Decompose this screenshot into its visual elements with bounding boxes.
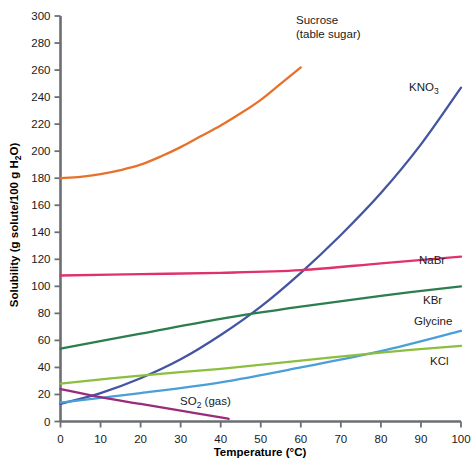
x-axis-tick-label: 10 <box>94 433 107 445</box>
series-label-kno3-subscript: 3 <box>434 86 439 96</box>
series-label-sucrose-line1: Sucrose <box>296 14 338 26</box>
x-axis-tick-label: 30 <box>174 433 187 445</box>
x-axis-title: Temperature (°C) <box>214 446 307 458</box>
y-axis-tick-label: 120 <box>31 253 50 265</box>
x-axis-tick-label: 20 <box>134 433 147 445</box>
y-axis-tick-label: 80 <box>38 307 51 319</box>
y-axis-title-main: Solubility (g solute/100 g H <box>8 160 20 307</box>
series-label-so2-text: SO <box>180 395 197 407</box>
x-axis-tick-label: 70 <box>334 433 347 445</box>
y-axis-tick-label: 300 <box>31 10 50 22</box>
series-label-glycine: Glycine <box>414 315 452 327</box>
y-axis-tick-label: 180 <box>31 172 50 184</box>
y-axis-tick-label: 20 <box>38 388 51 400</box>
solubility-chart: 0204060801001201401601802002202402602803… <box>0 0 472 467</box>
series-label-nabr: NaBr <box>419 254 445 266</box>
y-axis-tick-label: 200 <box>31 145 50 157</box>
x-axis-tick-label: 100 <box>451 433 470 445</box>
series-label-kbr: KBr <box>423 294 442 306</box>
y-axis-tick-label: 140 <box>31 226 50 238</box>
x-axis-tick-label: 80 <box>375 433 388 445</box>
series-label-kno3-text: KNO <box>409 81 434 93</box>
series-label-sucrose-line2: (table sugar) <box>296 28 361 40</box>
chart-background <box>0 0 472 467</box>
y-axis-tick-label: 260 <box>31 64 50 76</box>
x-axis-tick-label: 0 <box>57 433 63 445</box>
y-axis-tick-label: 160 <box>31 199 50 211</box>
y-axis-tick-label: 280 <box>31 37 50 49</box>
x-axis-tick-label: 90 <box>415 433 428 445</box>
y-axis-tick-label: 240 <box>31 91 50 103</box>
y-axis-tick-label: 60 <box>38 334 51 346</box>
x-axis-tick-label: 40 <box>214 433 227 445</box>
y-axis-tick-label: 100 <box>31 280 50 292</box>
series-label-kcl: KCl <box>430 355 449 367</box>
solubility-curve-figure: 0204060801001201401601802002202402602803… <box>0 0 472 467</box>
y-axis-tick-label: 0 <box>44 416 50 428</box>
x-axis-tick-label: 60 <box>294 433 307 445</box>
x-axis-tick-label: 50 <box>254 433 267 445</box>
y-axis-tick-label: 220 <box>31 118 50 130</box>
y-axis-tick-label: 40 <box>38 361 51 373</box>
y-axis-title-tail: O) <box>8 143 20 156</box>
series-label-so2-suffix: (gas) <box>201 395 231 407</box>
